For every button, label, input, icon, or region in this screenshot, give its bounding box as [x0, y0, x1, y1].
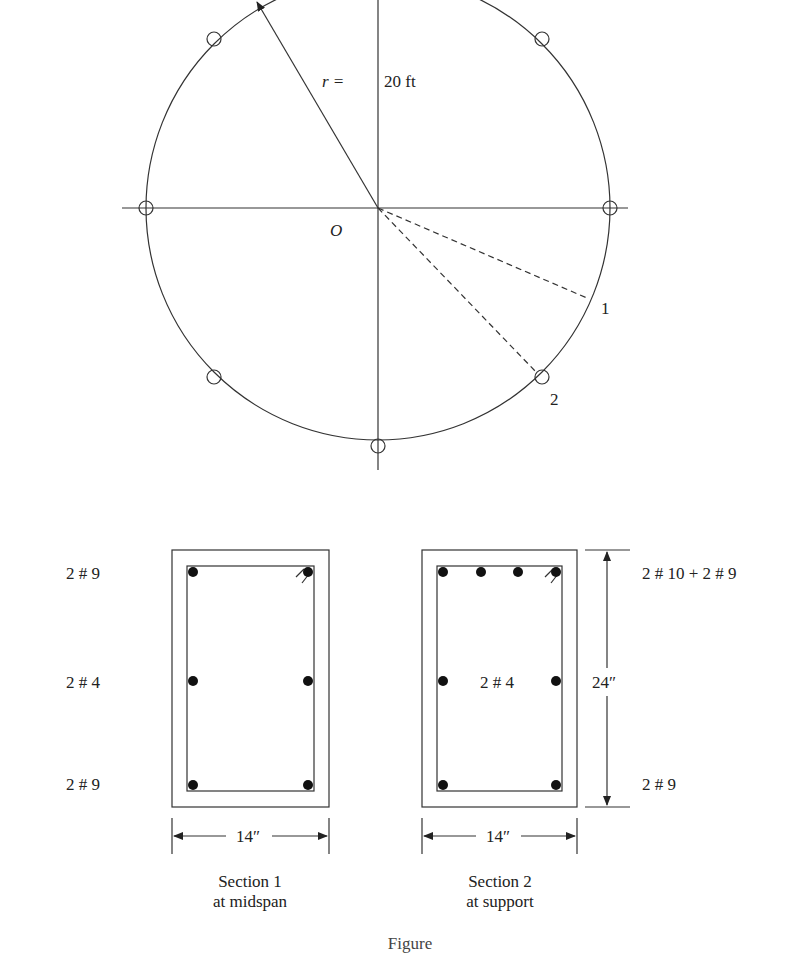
center-label: O: [330, 222, 342, 239]
radius-arrow: [257, 2, 378, 208]
section-1-caption: Section 1 at midspan: [170, 872, 330, 912]
section-2-top-bars: 2 # 10 + 2 # 9: [642, 565, 737, 582]
section-1-top-bars: 2 # 9: [66, 565, 100, 582]
radius-label-prefix: r =: [322, 73, 344, 90]
section-2-side-bars: 2 # 4: [480, 674, 514, 691]
section-2-width-label: 14″: [486, 828, 510, 845]
section-1-width-label: 14″: [236, 828, 260, 845]
section-1-drawing: [172, 550, 329, 854]
section-marker-1: 1: [601, 300, 610, 317]
section-1-side-bars: 2 # 4: [66, 674, 100, 691]
section-1-bottom-bars: 2 # 9: [66, 776, 100, 793]
section-1-subtitle: at midspan: [170, 892, 330, 912]
section-1-line: [378, 208, 587, 298]
section-2-caption: Section 2 at support: [420, 872, 580, 912]
section-2-line: [378, 208, 537, 373]
section-2-subtitle: at support: [420, 892, 580, 912]
radius-label-value: 20 ft: [384, 73, 416, 90]
section-2-bottom-bars: 2 # 9: [642, 776, 676, 793]
section-1-title: Section 1: [170, 872, 330, 892]
section-2-height-label: 24″: [592, 674, 616, 691]
section-marker-2: 2: [550, 391, 559, 408]
section-1-stirrup: [187, 566, 314, 791]
section-1-rebars: [188, 567, 313, 790]
section-2-drawing: [422, 550, 630, 854]
figure-caption: Figure: [250, 934, 570, 954]
section-2-title: Section 2: [420, 872, 580, 892]
